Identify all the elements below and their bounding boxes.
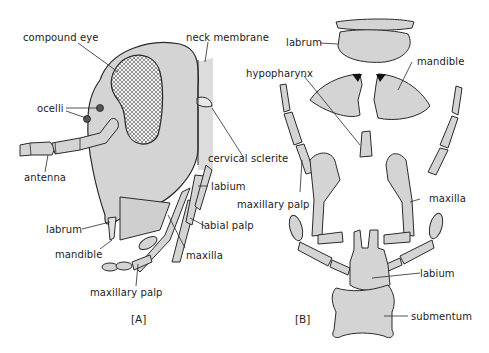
label-hypopharynx: hypopharynx [246,68,313,80]
diagram-drawing [0,0,489,353]
label-antenna: antenna [24,172,66,184]
label-labial-palp: labial palp [201,220,254,232]
insect-mouthparts-diagram: compound eye neck membrane ocelli antenn… [0,0,489,353]
label-mandible-a: mandible [55,249,102,261]
label-compound-eye: compound eye [23,32,98,44]
label-maxillary-palp-b: maxillary palp [237,199,309,211]
label-neck-membrane: neck membrane [186,32,269,44]
label-labium-a: labium [211,181,246,193]
label-maxilla-b: maxilla [429,193,466,205]
label-labrum-b: labrum [286,37,322,49]
label-labium-b: labium [420,268,455,280]
panel-caption-a: [A] [131,313,146,325]
label-cervical-sclerite: cervical sclerite [208,153,288,165]
panel-caption-b: [B] [295,313,310,325]
label-ocelli: ocelli [37,103,64,115]
label-labrum-a: labrum [46,224,82,236]
label-maxillary-palp-a: maxillary palp [90,287,162,299]
label-maxilla-a: maxilla [186,250,223,262]
label-mandible-b: mandible [417,56,464,68]
label-submentum: submentum [411,311,472,323]
